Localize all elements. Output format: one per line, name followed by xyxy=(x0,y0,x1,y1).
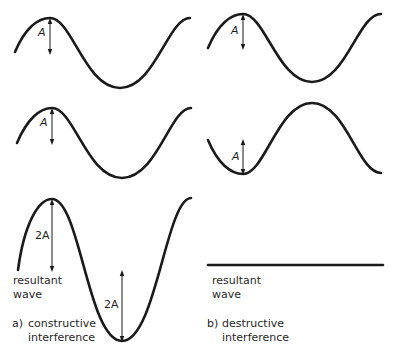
caption-line: interference xyxy=(207,331,289,345)
destructive-wave-2 xyxy=(208,103,381,174)
resultant-label-line: wave xyxy=(13,288,62,302)
caption-marker: b) xyxy=(207,317,222,331)
amplitude-label: A xyxy=(40,116,48,129)
caption-destructive: b)destructive interference xyxy=(207,317,289,345)
caption-constructive: a)constructive interference xyxy=(12,317,96,345)
resultant-label-line: resultant xyxy=(13,274,62,288)
resultant-wave-label: resultant wave xyxy=(13,274,62,302)
caption-line: constructive xyxy=(28,317,96,330)
amplitude-label: A xyxy=(232,150,240,163)
amplitude-2a-label: 2A xyxy=(104,298,119,311)
resultant-label-line: resultant xyxy=(212,274,261,288)
amplitude-label: A xyxy=(38,26,46,39)
caption-line: interference xyxy=(12,331,96,345)
caption-line: destructive xyxy=(222,317,284,330)
interference-diagram xyxy=(0,0,394,356)
caption-marker: a) xyxy=(12,317,28,331)
resultant-label-line: wave xyxy=(212,288,261,302)
resultant-wave-label: resultant wave xyxy=(212,274,261,302)
amplitude-label: A xyxy=(231,24,239,37)
amplitude-2a-label: 2A xyxy=(35,229,50,242)
